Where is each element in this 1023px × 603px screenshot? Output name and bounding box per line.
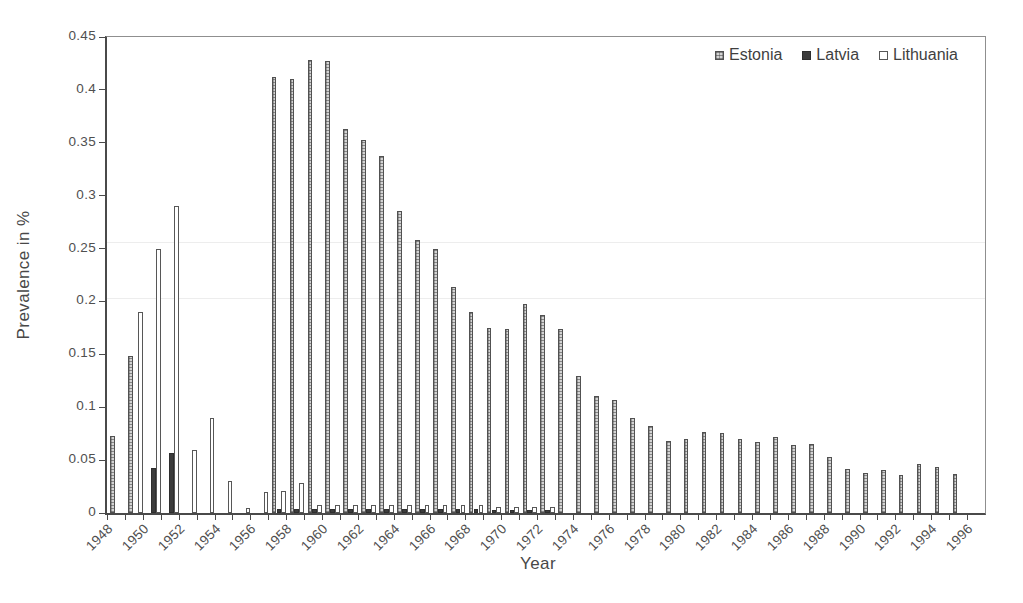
x-tick-1991 (877, 515, 878, 520)
x-tick-1986 (788, 515, 789, 520)
y-tick-label-0.2: 0.2 (42, 292, 96, 307)
bar-lithuania-1949 (138, 312, 143, 513)
bar-estonia-1977 (630, 418, 635, 513)
prevalence-bar-chart-figure: Estonia Latvia Lithuania Prevalence in %… (0, 0, 1023, 603)
y-tick-label-0.4: 0.4 (42, 81, 96, 96)
x-tick-1953 (197, 515, 198, 520)
bar-estonia-1982 (720, 433, 725, 513)
bar-estonia-1963 (379, 156, 384, 514)
y-tick-label-0.25: 0.25 (42, 240, 96, 255)
x-tick-1967 (447, 515, 448, 520)
x-tick-1989 (842, 515, 843, 520)
x-tick-1984 (752, 515, 753, 520)
bar-lithuania-1971 (532, 507, 537, 513)
bar-estonia-1957 (272, 77, 277, 513)
bar-estonia-1974 (576, 376, 581, 514)
bar-lithuania-1967 (461, 505, 466, 514)
y-tick-0.05 (99, 460, 105, 461)
x-tick-1974 (573, 515, 574, 520)
bar-estonia-1962 (361, 140, 366, 513)
x-tick-1978 (645, 515, 646, 520)
bar-estonia-1978 (648, 426, 653, 513)
x-tick-1954 (215, 515, 216, 520)
bar-lithuania-1960 (335, 505, 340, 514)
x-tick-1963 (376, 515, 377, 520)
legend-swatch-latvia-icon (802, 51, 811, 60)
x-tick-1994 (931, 515, 932, 520)
x-tick-1959 (304, 515, 305, 520)
y-tick-label-0.35: 0.35 (42, 134, 96, 149)
x-tick-1951 (161, 515, 162, 520)
y-tick-0.4 (99, 89, 105, 90)
bar-estonia-1949 (128, 356, 133, 513)
bar-estonia-1981 (702, 432, 707, 513)
x-tick-1962 (358, 515, 359, 520)
legend-item-lithuania: Lithuania (879, 46, 958, 64)
legend-label-lithuania: Lithuania (893, 46, 958, 64)
y-tick-0.1 (99, 407, 105, 408)
bar-estonia-1973 (558, 329, 563, 513)
y-tick-label-0: 0 (42, 504, 96, 519)
y-tick-0 (99, 513, 105, 514)
x-tick-1985 (770, 515, 771, 520)
x-tick-1996 (967, 515, 968, 520)
bar-lithuania-1952 (192, 450, 197, 514)
y-tick-label-0.45: 0.45 (42, 28, 96, 43)
bar-estonia-1969 (487, 328, 492, 513)
x-tick-1961 (340, 515, 341, 520)
x-tick-1992 (895, 515, 896, 520)
legend-swatch-lithuania-icon (879, 51, 888, 60)
y-tick-0.35 (99, 142, 105, 143)
legend-swatch-estonia-icon (715, 51, 724, 60)
bar-estonia-1995 (953, 474, 958, 513)
scan-artifact-line (107, 242, 985, 243)
bar-estonia-1976 (612, 400, 617, 513)
x-tick-1975 (591, 515, 592, 520)
bar-estonia-1960 (325, 61, 330, 513)
bar-lithuania-1966 (443, 505, 448, 514)
legend-label-estonia: Estonia (729, 46, 782, 64)
bar-lithuania-1972 (550, 507, 555, 513)
x-tick-1976 (609, 515, 610, 520)
bar-lithuania-1956 (264, 492, 269, 513)
bar-estonia-1972 (540, 315, 545, 513)
bar-estonia-1961 (343, 129, 348, 513)
bar-estonia-1984 (755, 442, 760, 513)
x-tick-1968 (465, 515, 466, 520)
bar-lithuania-1969 (496, 507, 501, 513)
x-tick-1987 (806, 515, 807, 520)
bar-lithuania-1962 (371, 505, 376, 514)
y-tick-label-0.3: 0.3 (42, 187, 96, 202)
bar-lithuania-1964 (407, 505, 412, 514)
bar-lithuania-1957 (281, 491, 286, 513)
bar-estonia-1990 (863, 473, 868, 513)
x-tick-1950 (143, 515, 144, 520)
x-tick-1957 (268, 515, 269, 520)
bar-estonia-1987 (809, 444, 814, 513)
y-tick-label-0.15: 0.15 (42, 345, 96, 360)
bar-lithuania-1963 (389, 505, 394, 514)
scan-artifact-line (107, 298, 985, 299)
y-tick-label-0.05: 0.05 (42, 451, 96, 466)
x-tick-1977 (627, 515, 628, 520)
bar-estonia-1959 (308, 60, 313, 513)
bar-estonia-1994 (935, 467, 940, 514)
x-tick-1993 (913, 515, 914, 520)
bar-estonia-1983 (738, 439, 743, 513)
bar-lithuania-1959 (317, 505, 322, 514)
x-tick-1958 (286, 515, 287, 520)
y-tick-label-0.1: 0.1 (42, 398, 96, 413)
bar-lithuania-1958 (299, 483, 304, 513)
legend-label-latvia: Latvia (816, 46, 859, 64)
bar-lithuania-1965 (425, 505, 430, 514)
x-tick-1960 (322, 515, 323, 520)
bar-estonia-1975 (594, 396, 599, 513)
bar-estonia-1992 (899, 475, 904, 513)
x-tick-1964 (394, 515, 395, 520)
x-tick-1966 (430, 515, 431, 520)
x-tick-1952 (179, 515, 180, 520)
x-tick-1979 (662, 515, 663, 520)
bar-estonia-1968 (469, 312, 474, 513)
x-tick-1971 (519, 515, 520, 520)
legend-item-estonia: Estonia (715, 46, 782, 64)
